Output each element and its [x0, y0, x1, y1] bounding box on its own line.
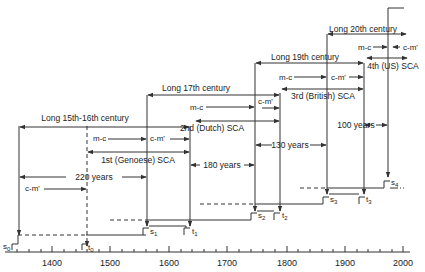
- century-label: Long 17th century: [162, 83, 231, 93]
- c-m-prime-label: c-m': [258, 97, 273, 106]
- c-m-prime-label: c-m': [331, 73, 346, 82]
- axis-tick-label: 1800: [277, 258, 297, 268]
- axis-tick-label: 1600: [159, 258, 179, 268]
- s3-marker: s3: [330, 195, 338, 205]
- s4-marker: s4: [391, 178, 399, 188]
- century-label: Long 19th century: [271, 52, 340, 62]
- axis-tick-label: 1900: [335, 258, 355, 268]
- s1-marker: s1: [150, 227, 158, 237]
- pre-c-m-prime-label: c-m': [25, 184, 40, 193]
- axis-tick-label: 2000: [393, 258, 413, 268]
- m-c-label: m-c: [279, 73, 292, 82]
- sca-timeline-diagram: 1400 1500 1600 1700 1800 1900 2000: [0, 0, 425, 272]
- c-m-prime-label: c-m': [150, 134, 165, 143]
- time-axis: 1400 1500 1600 1700 1800 1900 2000: [5, 246, 413, 268]
- c-m-prime-label: c-m': [403, 43, 418, 52]
- transition-markers: s0 t0 s1 t1 s2 t2 s3 t3 s4: [3, 173, 399, 253]
- axis-tick-label: 1500: [100, 258, 120, 268]
- duration-label: 180 years: [203, 160, 240, 170]
- duration-label-100: 100 years: [337, 120, 374, 130]
- duration-label: 130 years: [271, 140, 308, 150]
- t3-marker: t3: [366, 195, 372, 205]
- century-label: Long 15th-16th century: [41, 113, 129, 123]
- axis-tick-label: 1700: [217, 258, 237, 268]
- s2-marker: s2: [258, 211, 266, 221]
- staircase-levels: [12, 181, 406, 250]
- duration-label: 220 years: [75, 172, 112, 182]
- century-label: Long 20th century: [329, 24, 398, 34]
- axis-major-ticks: [52, 246, 403, 252]
- sca-label: 2nd (Dutch) SCA: [180, 123, 245, 133]
- sca-label: 4th (US) SCA: [367, 61, 419, 71]
- sca-label: 3rd (British) SCA: [291, 91, 355, 101]
- t2-marker: t2: [282, 211, 288, 221]
- m-c-label: m-c: [358, 43, 371, 52]
- s0-marker: s0: [3, 242, 11, 252]
- t1-marker: t1: [192, 227, 198, 237]
- cycle-1-genoese: Long 15th-16th century m-c c-m' 1st (Gen…: [20, 113, 189, 193]
- axis-tick-label: 1400: [42, 258, 62, 268]
- t0-marker: t0: [88, 243, 94, 253]
- m-c-label: m-c: [190, 103, 203, 112]
- sca-label: 1st (Genoese) SCA: [101, 155, 175, 165]
- m-c-label: m-c: [93, 134, 106, 143]
